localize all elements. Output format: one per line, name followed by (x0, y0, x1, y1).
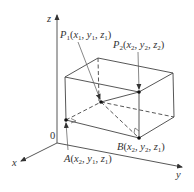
point-a (64, 118, 68, 122)
origin-label: 0 (50, 130, 55, 141)
x-axis-label: x (11, 157, 17, 168)
leader-p1 (78, 42, 100, 99)
right-angle-mark-b (134, 128, 139, 133)
point-p1 (99, 100, 103, 104)
box-solid-edges (65, 58, 174, 138)
3d-box-diagram: z x y 0 P1(x1, y1, z1) (0, 0, 194, 192)
point-b (137, 136, 141, 140)
label-p2: P2(x2, y2, z2) (112, 39, 165, 52)
y-axis-label: y (175, 169, 181, 180)
leader-a (66, 123, 68, 150)
x-axis (21, 143, 57, 161)
label-p1: P1(x1, y1, z1) (59, 29, 112, 42)
label-b: B(x2, y2, z1) (117, 141, 165, 154)
z-axis-label: z (46, 13, 51, 24)
label-a: A(x2, y1, z1) (63, 153, 112, 166)
point-p2 (137, 90, 141, 94)
leader-p2 (138, 52, 139, 89)
